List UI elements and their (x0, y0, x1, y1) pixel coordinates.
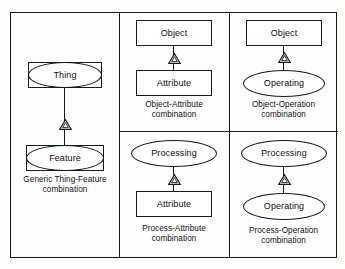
node-operating-label: Operating (264, 79, 304, 88)
edge-object-operating (277, 46, 291, 70)
node-attribute-label: Attribute (157, 79, 191, 88)
node-feature[interactable]: Feature (26, 145, 104, 171)
caption-line-2: combination (229, 110, 338, 120)
generalization-triangle-icon (278, 52, 291, 63)
caption-line-2: combination (119, 234, 229, 244)
generalization-triangle-icon (168, 174, 181, 185)
panel-object-operation: Object Operating Object-Operation (229, 13, 338, 131)
panel-process-operation: Processing Operating Process-Opera (229, 131, 338, 256)
caption-line-1: Generic Thing-Feature (11, 175, 119, 185)
generalization-triangle-icon (278, 174, 291, 185)
node-object-label: Object (271, 29, 298, 38)
caption-generic-thing-feature: Generic Thing-Feature combination (11, 175, 119, 195)
node-object[interactable]: Object (246, 20, 322, 46)
panel-object-attribute: Object Attribute Object-Attribute (119, 13, 229, 131)
node-attribute[interactable]: Attribute (136, 191, 212, 217)
caption-process-operation: Process-Operation combination (229, 226, 338, 246)
node-processing-label: Processing (261, 149, 307, 158)
node-processing[interactable]: Processing (241, 140, 327, 167)
node-thing-label: Thing (53, 71, 76, 80)
node-object[interactable]: Object (136, 20, 212, 46)
node-processing-label: Processing (151, 149, 197, 158)
diagram-figure: Thing Feature Generic T (0, 0, 345, 269)
caption-line-1: Object-Attribute (119, 100, 229, 110)
panel-process-attribute: Processing Attribute Process-Attri (119, 131, 229, 256)
generalization-triangle-icon (59, 119, 72, 130)
edge-stem (64, 88, 65, 145)
generalization-triangle-icon (168, 53, 181, 64)
edge-processing-attribute (167, 167, 181, 191)
caption-line-2: combination (229, 236, 338, 246)
node-attribute-label: Attribute (157, 200, 191, 209)
node-operating[interactable]: Operating (243, 193, 325, 220)
caption-line-1: Object-Operation (229, 100, 338, 110)
node-processing[interactable]: Processing (131, 140, 217, 167)
caption-line-2: combination (119, 110, 229, 120)
panel-generic-thing-feature: Thing Feature Generic T (11, 13, 119, 256)
node-attribute[interactable]: Attribute (136, 70, 212, 96)
caption-line-1: Process-Operation (229, 226, 338, 236)
node-operating-label: Operating (264, 202, 304, 211)
node-object-label: Object (161, 29, 188, 38)
node-feature-label: Feature (49, 154, 81, 163)
caption-object-attribute: Object-Attribute combination (119, 100, 229, 120)
caption-line-2: combination (11, 185, 119, 195)
edge-object-attribute (167, 46, 181, 70)
caption-object-operation: Object-Operation combination (229, 100, 338, 120)
edge-thing-feature (58, 88, 72, 145)
node-thing[interactable]: Thing (28, 62, 102, 88)
diagram-frame: Thing Feature Generic T (10, 12, 337, 258)
node-operating[interactable]: Operating (243, 70, 325, 97)
edge-processing-operating (277, 167, 291, 193)
caption-line-1: Process-Attribute (119, 224, 229, 234)
caption-process-attribute: Process-Attribute combination (119, 224, 229, 244)
